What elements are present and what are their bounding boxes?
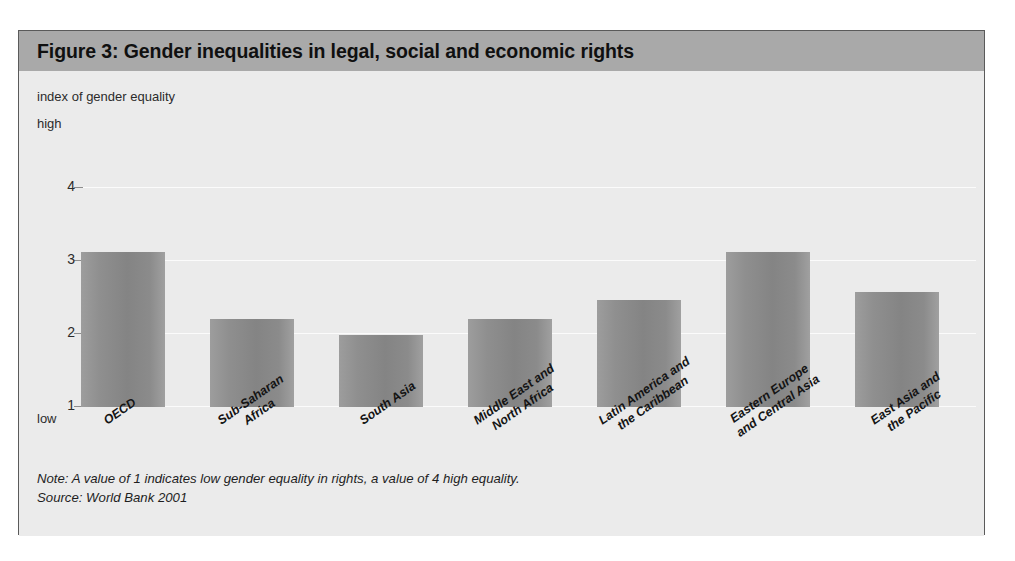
figure-title: Figure 3: Gender inequalities in legal, … — [37, 40, 634, 63]
bars-layer — [19, 71, 984, 407]
bar-oecd — [81, 252, 165, 407]
figure-source: Source: World Bank 2001 — [37, 488, 520, 507]
figure-panel: Figure 3: Gender inequalities in legal, … — [18, 30, 985, 535]
y-axis-low-label: low — [37, 411, 57, 426]
figure-title-band: Figure 3: Gender inequalities in legal, … — [19, 31, 984, 71]
footnotes: Note: A value of 1 indicates low gender … — [37, 469, 520, 507]
plot-area: index of gender equality high low 4 3 2 … — [19, 71, 984, 536]
figure-note: Note: A value of 1 indicates low gender … — [37, 469, 520, 488]
